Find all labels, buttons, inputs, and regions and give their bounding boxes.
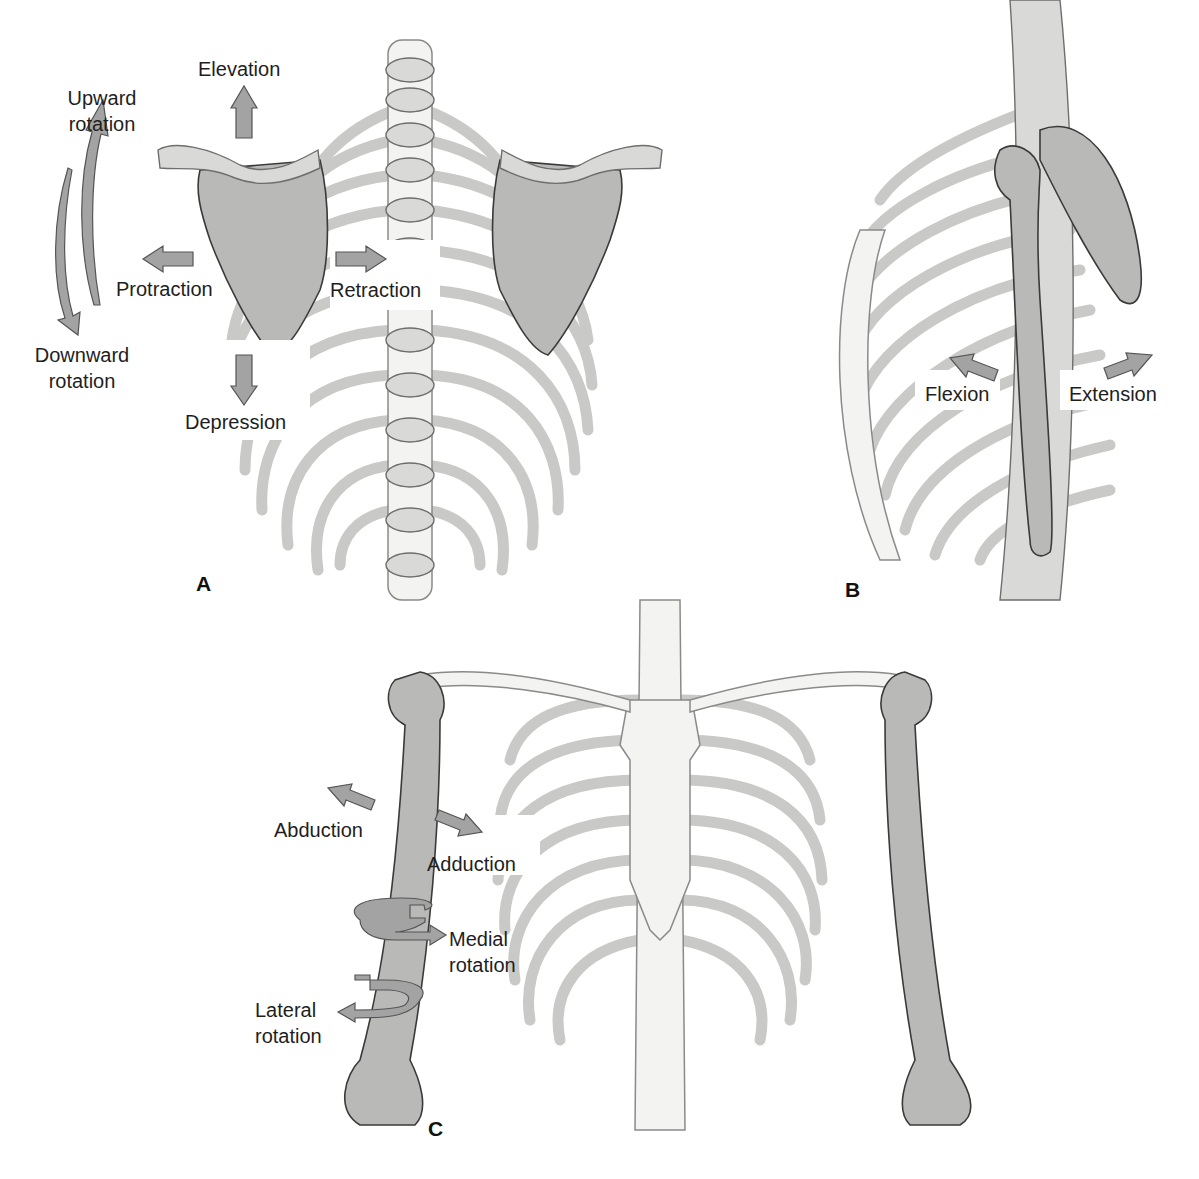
label-lateral-rotation-line2: rotation <box>255 1024 322 1048</box>
arrow-left-protraction-icon <box>143 246 193 272</box>
label-medial-rotation-line2: rotation <box>449 953 516 977</box>
label-lateral-rotation-line1: Lateral <box>255 998 316 1022</box>
label-downward-rotation-line2: rotation <box>27 369 137 393</box>
circular-arrow-medial-rotation-icon <box>354 898 446 945</box>
figure: Elevation Upward rotation Protraction Re… <box>0 0 1199 1179</box>
label-abduction: Abduction <box>274 818 363 842</box>
panel-letter-a: A <box>196 572 211 596</box>
panel-a-artwork <box>158 40 662 600</box>
label-elevation: Elevation <box>198 57 280 81</box>
panel-letter-c: C <box>428 1117 443 1141</box>
panel-c-right-humerus <box>881 672 971 1125</box>
panel-b-artwork <box>840 0 1180 600</box>
label-medial-rotation-line1: Medial <box>449 927 508 951</box>
panel-letter-b: B <box>845 578 860 602</box>
curved-arrow-downward-rotation-icon <box>56 168 80 335</box>
label-adduction: Adduction <box>427 852 516 876</box>
illustration <box>0 0 1199 1179</box>
label-protraction: Protraction <box>116 277 213 301</box>
panel-a-spine <box>386 40 434 600</box>
label-depression: Depression <box>185 410 286 434</box>
arrow-abduction-icon <box>328 784 375 810</box>
arrow-up-elevation-icon <box>231 86 257 138</box>
label-retraction: Retraction <box>330 278 421 302</box>
label-extension: Extension <box>1069 382 1157 406</box>
label-upward-rotation-line1: Upward <box>62 86 142 110</box>
label-flexion: Flexion <box>925 382 989 406</box>
label-downward-rotation-line1: Downward <box>27 343 137 367</box>
label-upward-rotation-line2: rotation <box>62 112 142 136</box>
arrow-adduction-icon <box>435 810 482 836</box>
